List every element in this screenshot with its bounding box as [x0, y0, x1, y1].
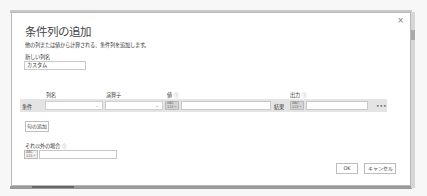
- condition-label: 条件: [22, 103, 32, 110]
- chevron-down-icon: ⌄: [33, 153, 36, 157]
- operator-header: 演算子: [106, 91, 121, 98]
- cancel-button[interactable]: キャンセル: [364, 163, 396, 174]
- result-label: 結果: [274, 103, 284, 110]
- column-name-select[interactable]: ⌄: [45, 101, 103, 110]
- scrollbar-thumb[interactable]: [411, 30, 415, 40]
- info-icon[interactable]: ⓘ: [302, 93, 306, 98]
- chevron-down-icon: ⌄: [299, 104, 302, 108]
- output-header-text: 出力: [290, 92, 300, 98]
- value-header-text: 値: [167, 92, 172, 98]
- else-label-text: それ以外の場合: [25, 143, 60, 149]
- ok-button[interactable]: OK: [336, 163, 358, 174]
- output-header: 出力 ⓘ: [290, 91, 306, 98]
- value-header: 値 ⓘ: [167, 91, 178, 98]
- value-type-button[interactable]: ABC 123 ⌄: [165, 101, 179, 110]
- new-column-name-label: 新しい列名: [25, 53, 50, 60]
- new-column-name-input[interactable]: カスタム: [24, 61, 86, 70]
- info-icon[interactable]: ⓘ: [174, 93, 178, 98]
- else-value-input[interactable]: [39, 150, 117, 159]
- dialog-subtitle: 他の列または値から計算される、条件列を追加します。: [25, 41, 149, 48]
- output-type-button[interactable]: ABC 123 ⌄: [290, 101, 304, 110]
- else-type-button[interactable]: ABC 123 ⌄: [24, 150, 38, 159]
- output-input[interactable]: [306, 101, 368, 110]
- condition-row: 条件 ⌄ ⌄ ABC 123 ⌄ 結果 ABC 123 ⌄ •••: [20, 99, 387, 112]
- chevron-down-icon: ⌄: [95, 102, 99, 110]
- operator-select[interactable]: ⌄: [105, 101, 163, 110]
- dialog-title: 条件列の追加: [25, 23, 91, 39]
- info-icon[interactable]: ⓘ: [62, 144, 66, 149]
- else-label: それ以外の場合 ⓘ: [25, 142, 66, 149]
- value-input[interactable]: [181, 101, 271, 110]
- chevron-down-icon: ⌄: [174, 104, 177, 108]
- add-clause-button[interactable]: 句の追加: [25, 121, 49, 132]
- more-options-icon[interactable]: •••: [376, 102, 387, 109]
- close-icon[interactable]: ×: [397, 17, 404, 25]
- column-name-header: 列名: [46, 91, 56, 98]
- background-window-strip: [32, 186, 74, 188]
- add-conditional-column-dialog: × 条件列の追加 他の列または値から計算される、条件列を追加します。 新しい列名…: [11, 12, 411, 186]
- chevron-down-icon: ⌄: [155, 102, 159, 110]
